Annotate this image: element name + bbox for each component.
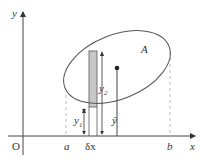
y2-label: y2 [98,82,108,97]
strip-width-label: δx [85,140,96,152]
region-label: A [140,43,148,55]
x-axis-label: x [189,140,195,152]
strip-element [89,51,97,107]
centroid-point [115,66,120,71]
bound-b-label: b [167,140,173,152]
area-centroid-diagram: y x O a b δx A y1 y2 ȳ [0,0,201,161]
y-axis-label: y [11,7,17,19]
y1-label: y1 [73,114,82,129]
origin-label: O [12,140,20,152]
bound-a-label: a [64,140,70,152]
y1-arrow-head-top [82,108,86,113]
y2-arrow-head-top [100,51,104,56]
